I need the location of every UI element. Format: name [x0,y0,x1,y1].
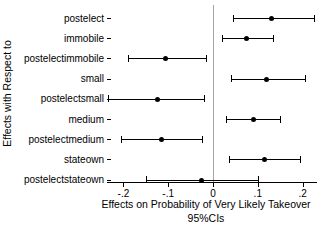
category-tick [107,79,111,80]
ci-cap-left [229,156,230,163]
category-tick [107,38,111,39]
category-label: small [0,72,104,85]
ci-cap-left [128,55,129,62]
ci-cap-right [258,176,259,183]
x-tick [303,183,304,187]
point-estimate [199,178,204,183]
ci-cap-left [231,75,232,82]
point-estimate [264,77,269,82]
ci-cap-right [202,136,203,143]
ci-cap-right [204,95,205,102]
x-axis-title: Effects on Probability of Very Likely Ta… [95,198,317,211]
x-axis-subtitle: 95%CIs [95,212,317,225]
ci-cap-right [300,156,301,163]
category-label: postelectstateown [0,173,104,186]
x-tick [168,183,169,187]
category-label: postelect [0,12,104,25]
point-estimate [244,36,249,41]
zero-reference-line [213,5,214,183]
ci-cap-left [121,136,122,143]
category-tick [107,139,111,140]
ci-cap-left [233,15,234,22]
point-estimate [262,157,267,162]
category-tick [107,180,111,181]
category-tick [107,58,111,59]
ci-cap-left [222,35,223,42]
ci-cap-left [226,116,227,123]
point-estimate [269,16,274,21]
x-tick [258,183,259,187]
coefficient-plot-figure: Effects with Respect to -.2-.10.1.2poste… [0,0,317,233]
ci-cap-right [273,35,274,42]
point-estimate [159,137,164,142]
ci-cap-left [146,176,147,183]
category-label: medium [0,113,104,126]
point-estimate [155,97,160,102]
ci-cap-right [206,55,207,62]
point-estimate [163,56,168,61]
ci-cap-right [280,116,281,123]
category-label: stateown [0,153,104,166]
category-tick [107,18,111,19]
ci-cap-right [314,15,315,22]
category-label: postelectsmall [0,92,104,105]
ci-cap-left [108,95,109,102]
ci-cap-right [305,75,306,82]
point-estimate [251,117,256,122]
category-label: postelectmedium [0,133,104,146]
category-tick [107,119,111,120]
x-axis-line [107,182,317,183]
x-tick [123,183,124,187]
category-label: postelectimmobile [0,52,104,65]
category-tick [107,159,111,160]
x-tick [213,183,214,187]
category-label: immobile [0,32,104,45]
